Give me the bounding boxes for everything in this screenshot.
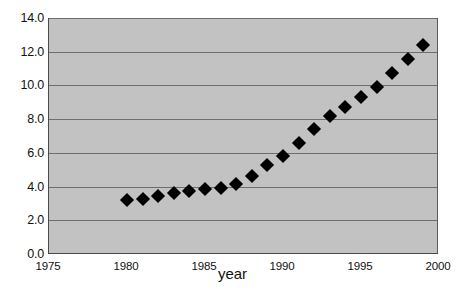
scatter-chart-figure: 0.02.04.06.08.010.012.014.0 197519801985…: [0, 0, 465, 297]
x-axis-title: year: [0, 266, 465, 281]
x-axis-tick-labels: 197519801985199019952000: [0, 0, 465, 297]
